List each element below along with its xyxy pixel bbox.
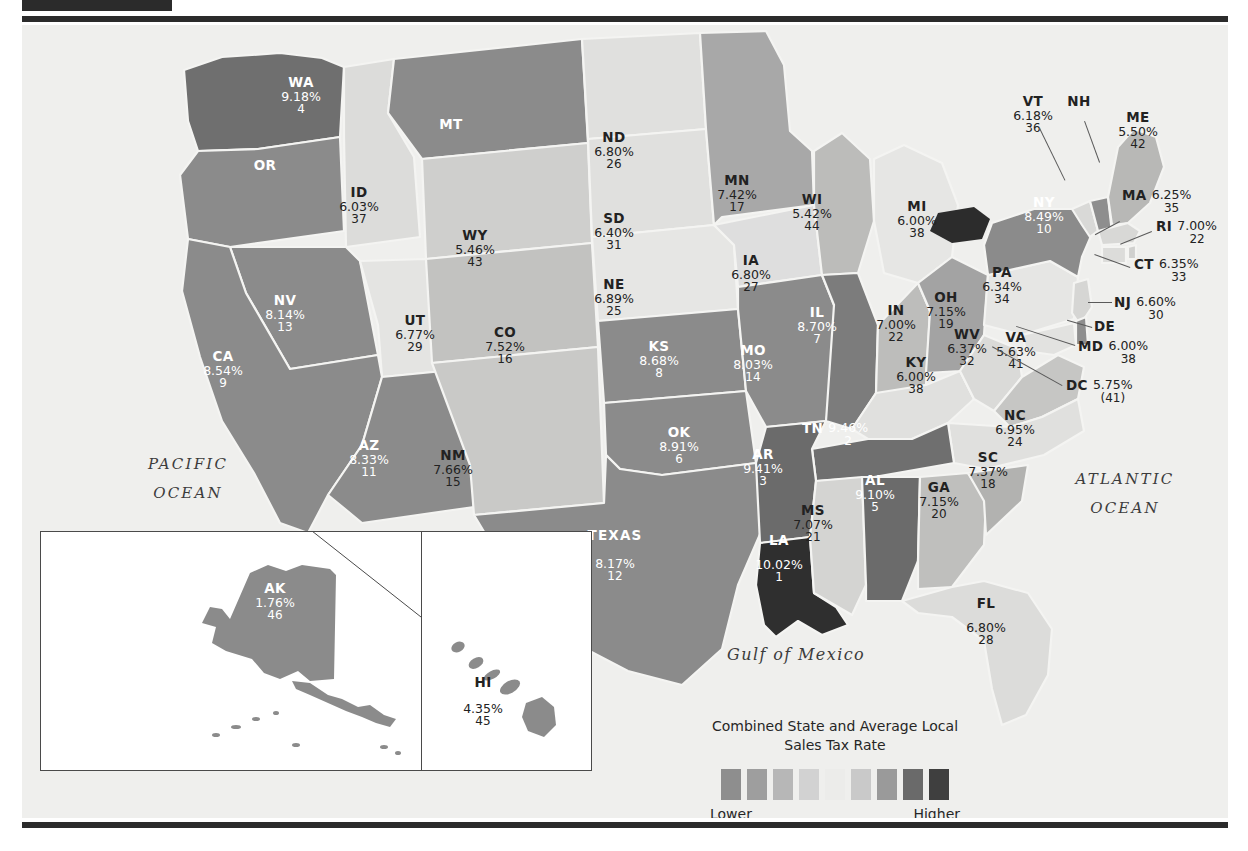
legend-swatch-2 bbox=[773, 769, 793, 800]
state-shape-ak-panhandle[interactable] bbox=[292, 681, 396, 727]
state-shape-ga[interactable] bbox=[918, 473, 986, 589]
state-shape-mo[interactable] bbox=[738, 275, 840, 427]
legend-swatch-5 bbox=[851, 769, 871, 800]
legend-swatch-3 bbox=[799, 769, 819, 800]
state-shape-wi[interactable] bbox=[814, 133, 874, 275]
state-shape-or[interactable] bbox=[180, 137, 344, 247]
map-legend: Combined State and Average Local Sales T… bbox=[670, 717, 1000, 818]
leader-line-nj bbox=[1088, 302, 1112, 303]
state-shape-mt[interactable] bbox=[388, 39, 588, 159]
legend-swatch-6 bbox=[877, 769, 897, 800]
legend-swatch-1 bbox=[747, 769, 767, 800]
legend-swatch-7 bbox=[903, 769, 923, 800]
legend-title: Combined State and Average Local Sales T… bbox=[670, 717, 1000, 755]
state-shape-sd[interactable] bbox=[588, 129, 714, 237]
state-shape-wa[interactable] bbox=[184, 53, 344, 151]
legend-swatch-strip bbox=[716, 769, 954, 800]
state-shape-in[interactable] bbox=[876, 283, 930, 395]
legend-title-line-2: Sales Tax Rate bbox=[670, 736, 1000, 755]
legend-swatch-8 bbox=[929, 769, 949, 800]
state-shape-ok[interactable] bbox=[604, 391, 756, 475]
state-shape-ms[interactable] bbox=[810, 477, 866, 615]
state-shape-de[interactable] bbox=[1076, 317, 1088, 345]
page-corner-marker bbox=[22, 0, 172, 11]
legend-swatch-0 bbox=[721, 769, 741, 800]
legend-title-line-1: Combined State and Average Local bbox=[670, 717, 1000, 736]
bottom-rule bbox=[22, 822, 1228, 828]
legend-swatch-4 bbox=[825, 769, 845, 800]
state-shape-ne[interactable] bbox=[592, 225, 738, 321]
state-shape-co[interactable] bbox=[426, 243, 598, 363]
state-shape-me[interactable] bbox=[1108, 129, 1164, 225]
state-shape-mn[interactable] bbox=[700, 31, 814, 225]
legend-endpoint-labels: Lower Higher bbox=[710, 806, 960, 818]
legend-low-label: Lower bbox=[710, 806, 752, 818]
state-shape-ak[interactable] bbox=[202, 565, 336, 681]
state-shape-fl[interactable] bbox=[902, 581, 1052, 725]
top-rule bbox=[22, 16, 1228, 22]
map-surface: WA 9.18% 4 OR ID 6.03% 37 MT ND 6.80% 26… bbox=[22, 25, 1228, 818]
inset-shapes bbox=[40, 531, 592, 771]
state-shape-ks[interactable] bbox=[598, 309, 746, 403]
state-shape-nd[interactable] bbox=[582, 33, 706, 139]
legend-high-label: Higher bbox=[913, 806, 960, 818]
state-shape-wy[interactable] bbox=[422, 143, 592, 259]
state-shape-ri[interactable] bbox=[1128, 245, 1136, 259]
state-shape-al[interactable] bbox=[862, 477, 920, 601]
state-shape-hi[interactable] bbox=[450, 640, 556, 737]
map-figure: WA 9.18% 4 OR ID 6.03% 37 MT ND 6.80% 26… bbox=[22, 25, 1228, 818]
